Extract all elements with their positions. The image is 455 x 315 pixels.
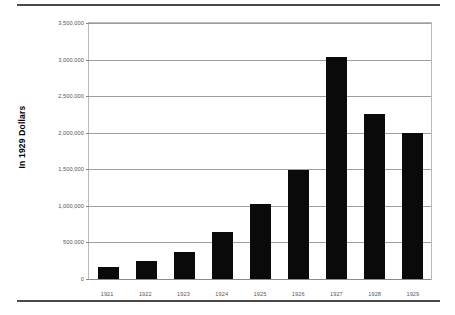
bar-slot bbox=[355, 23, 393, 279]
x-axis-tick-label-1929: 1929 bbox=[406, 291, 419, 297]
x-axis-slot: 1921 bbox=[88, 282, 126, 300]
x-axis-slot: 1927 bbox=[317, 282, 355, 300]
x-axis-slot: 1925 bbox=[241, 282, 279, 300]
x-axis-slot: 1922 bbox=[126, 282, 164, 300]
x-axis-tick-label-1926: 1926 bbox=[292, 291, 305, 297]
y-axis-tick-label: 1,500,000 bbox=[58, 166, 89, 172]
y-axis-tick-label: 2,500,000 bbox=[58, 93, 89, 99]
y-axis-tick-label: 3,000,000 bbox=[58, 57, 89, 63]
bar-1926[interactable] bbox=[288, 170, 309, 279]
bar-1925[interactable] bbox=[250, 204, 271, 279]
x-axis-tick-label-1927: 1927 bbox=[330, 291, 343, 297]
gridline: 0 bbox=[89, 279, 431, 280]
bar-1921[interactable] bbox=[98, 267, 119, 279]
bar-slot bbox=[279, 23, 317, 279]
x-axis-tick-label-1925: 1925 bbox=[254, 291, 267, 297]
x-axis-slot: 1929 bbox=[394, 282, 432, 300]
plot-area: 0500,0001,000,0001,500,0002,000,0002,500… bbox=[88, 22, 432, 280]
y-axis-tick-label: 2,000,000 bbox=[58, 130, 89, 136]
bar-slot bbox=[89, 23, 127, 279]
x-axis-tick-label-1922: 1922 bbox=[139, 291, 152, 297]
bars-container bbox=[89, 23, 431, 279]
bar-1923[interactable] bbox=[174, 252, 195, 279]
bar-slot bbox=[241, 23, 279, 279]
x-axis-tick-label-1924: 1924 bbox=[215, 291, 228, 297]
y-axis-title: In 1929 Dollars bbox=[17, 82, 27, 192]
bottom-horizontal-rule bbox=[17, 300, 440, 302]
bar-1924[interactable] bbox=[212, 232, 233, 279]
bar-slot bbox=[393, 23, 431, 279]
x-axis-tick-label-1921: 1921 bbox=[101, 291, 114, 297]
bar-slot bbox=[203, 23, 241, 279]
x-axis-slot: 1923 bbox=[164, 282, 202, 300]
y-axis-tick-label: 1,000,000 bbox=[58, 203, 89, 209]
top-horizontal-rule bbox=[17, 4, 440, 6]
bar-slot bbox=[127, 23, 165, 279]
bar-1922[interactable] bbox=[136, 261, 157, 279]
bar-1928[interactable] bbox=[364, 114, 385, 279]
bar-chart-figure: In 1929 Dollars 0500,0001,000,0001,500,0… bbox=[0, 10, 455, 298]
bar-1927[interactable] bbox=[326, 57, 347, 279]
bar-slot bbox=[165, 23, 203, 279]
x-axis-slot: 1924 bbox=[203, 282, 241, 300]
bar-1929[interactable] bbox=[402, 133, 423, 279]
x-axis-slot: 1928 bbox=[356, 282, 394, 300]
y-axis-tick-label: 500,000 bbox=[63, 239, 89, 245]
x-axis-tick-label-1923: 1923 bbox=[177, 291, 190, 297]
bar-slot bbox=[317, 23, 355, 279]
x-axis-slot: 1926 bbox=[279, 282, 317, 300]
x-axis-labels: 192119221923192419251926192719281929 bbox=[88, 282, 432, 300]
x-axis-tick-label-1928: 1928 bbox=[368, 291, 381, 297]
y-axis-tick-label: 3,500,000 bbox=[58, 20, 89, 26]
